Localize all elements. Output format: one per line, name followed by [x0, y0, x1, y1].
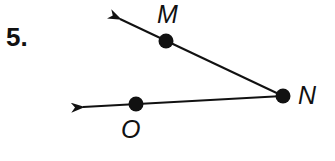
- point-m-dot: [159, 34, 174, 49]
- point-n-dot: [276, 89, 291, 104]
- diagram-canvas: 5. M N O: [0, 0, 335, 161]
- label-m: M: [157, 0, 178, 29]
- point-o-dot: [129, 97, 144, 112]
- label-n: N: [298, 81, 316, 110]
- ray-no: [83, 96, 283, 107]
- label-o: O: [121, 115, 140, 144]
- ray-nm: [120, 19, 283, 96]
